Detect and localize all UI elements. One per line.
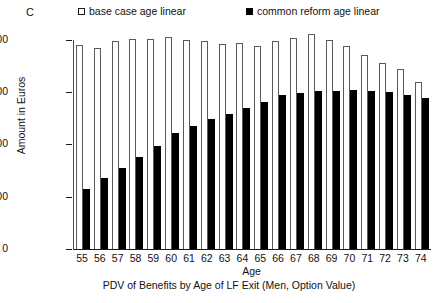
bar-base-case-age-65 [254,46,261,249]
bar-common-reform-age-56 [101,178,108,249]
bar-base-case-age-56 [94,48,101,249]
x-tick-label-59: 59 [145,252,161,266]
bar-group-age-56 [93,40,109,249]
x-tick-label-70: 70 [341,252,357,266]
y-tick-mark-0 [66,249,72,250]
y-axis-label: Amount in Euros [16,51,27,181]
bar-group-age-73 [396,40,412,249]
bar-base-case-age-55 [76,45,83,249]
x-tick-label-74: 74 [413,252,429,266]
x-tick-label-65: 65 [252,252,268,266]
bar-group-age-59 [146,40,162,249]
y-tick-mark-150000 [66,92,72,93]
x-tick-label-61: 61 [181,252,197,266]
bar-group-age-65 [253,40,269,249]
y-tick-label-0: 0 [0,243,8,254]
filled-square-icon [246,8,253,15]
bar-common-reform-age-73 [404,95,411,249]
x-tick-label-67: 67 [288,252,304,266]
bar-group-age-62 [200,40,216,249]
bar-group-age-69 [325,40,341,249]
y-tick-mark-200000 [66,40,72,41]
bar-common-reform-age-63 [226,114,233,249]
bar-base-case-age-64 [236,43,243,249]
bar-group-age-68 [307,40,323,249]
bar-group-age-71 [360,40,376,249]
y-tick-mark-50000 [66,197,72,198]
bar-common-reform-age-65 [261,102,268,249]
bar-common-reform-age-55 [83,189,90,249]
bar-base-case-age-74 [415,82,422,249]
y-tick-mark-100000 [66,144,72,145]
legend-label-base-case: base case age linear [89,6,186,17]
bar-base-case-age-62 [201,41,208,249]
bar-base-case-age-61 [183,40,190,249]
bar-common-reform-age-64 [243,108,250,249]
x-tick-label-72: 72 [377,252,393,266]
bar-group-age-57 [111,40,127,249]
bar-group-age-72 [378,40,394,249]
x-tick-label-66: 66 [270,252,286,266]
bar-base-case-age-66 [272,41,279,249]
x-tick-label-60: 60 [163,252,179,266]
x-tick-label-62: 62 [199,252,215,266]
legend-item-base-case: base case age linear [78,6,186,17]
bar-common-reform-age-71 [368,91,375,249]
chart-caption: PDV of Benefits by Age of LF Exit (Men, … [24,279,434,291]
bar-base-case-age-60 [165,37,172,249]
x-tick-label-56: 56 [92,252,108,266]
legend-item-common-reform: common reform age linear [246,6,380,17]
bar-common-reform-age-60 [172,133,179,249]
panel-label: C [26,6,34,18]
chart-figure: C base case age linear common reform age… [0,0,442,303]
bar-base-case-age-63 [219,44,226,249]
bar-common-reform-age-57 [119,168,126,250]
plot-area [73,40,431,250]
bar-group-age-58 [128,40,144,249]
bar-group-age-67 [289,40,305,249]
x-tick-label-58: 58 [127,252,143,266]
y-tick-label-150000: 150,000 [0,86,8,97]
bar-group-age-74 [414,40,430,249]
bar-common-reform-age-72 [386,92,393,249]
chart-legend: base case age linear common reform age l… [78,6,428,20]
bar-common-reform-age-59 [154,146,161,250]
x-tick-label-57: 57 [110,252,126,266]
bar-common-reform-age-62 [208,119,215,249]
bar-base-case-age-71 [361,55,368,249]
y-tick-label-200000: 200,000 [0,34,8,45]
bar-base-case-age-68 [308,34,315,249]
bar-common-reform-age-61 [190,126,197,249]
x-tick-label-73: 73 [395,252,411,266]
bar-group-age-70 [342,40,358,249]
y-tick-label-100000: 100,000 [0,138,8,149]
bar-base-case-age-72 [379,63,386,249]
bar-common-reform-age-68 [315,91,322,249]
x-axis-label: Age [73,265,430,277]
x-tick-label-63: 63 [217,252,233,266]
bar-base-case-age-67 [290,38,297,249]
bar-group-age-63 [218,40,234,249]
bar-base-case-age-58 [129,39,136,249]
bar-base-case-age-59 [147,39,154,249]
open-square-icon [78,8,85,15]
bar-base-case-age-73 [397,69,404,249]
bar-group-age-61 [182,40,198,249]
bar-base-case-age-57 [112,41,119,249]
bar-base-case-age-69 [326,40,333,249]
x-tick-label-55: 55 [74,252,90,266]
bar-common-reform-age-67 [297,93,304,249]
bar-group-age-60 [164,40,180,249]
bar-group-age-64 [235,40,251,249]
bar-common-reform-age-69 [333,91,340,249]
bar-group-age-55 [75,40,91,249]
bar-base-case-age-70 [343,46,350,249]
legend-label-common-reform: common reform age linear [257,6,380,17]
x-tick-label-71: 71 [359,252,375,266]
bar-common-reform-age-74 [422,98,429,250]
bar-groups [74,40,431,249]
x-axis-ticks: 5556575859606162636465666768697071727374 [73,252,430,266]
bar-common-reform-age-66 [279,95,286,249]
bar-common-reform-age-70 [350,90,357,249]
x-tick-label-69: 69 [324,252,340,266]
